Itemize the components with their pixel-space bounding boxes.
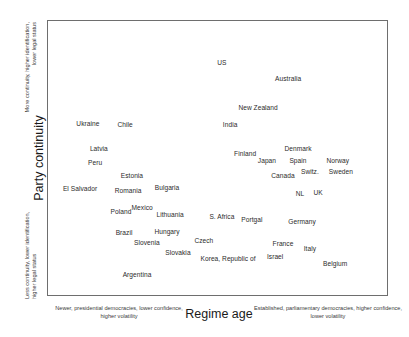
scatter-point-label: Germany <box>288 217 315 224</box>
scatter-point-label: Mexico <box>132 204 153 211</box>
scatter-point-label: Slovenia <box>134 238 160 245</box>
scatter-point-label: NL <box>296 190 305 197</box>
x-axis-low-note: Newer, presidential democracies, lower c… <box>48 304 190 320</box>
scatter-point-label: Latvia <box>90 145 108 152</box>
scatter-point-label: France <box>273 240 294 247</box>
scatter-point-label: Chile <box>117 121 132 128</box>
scatter-point-label: S. Africa <box>209 212 234 219</box>
scatter-point-label: Italy <box>304 244 316 251</box>
scatter-point-label: Ukraine <box>76 119 99 126</box>
scatter-point-label: India <box>223 121 238 128</box>
scatter-point-label: Czech <box>194 236 213 243</box>
scatter-point-label: El Salvador <box>63 185 97 192</box>
scatter-point-label: Romania <box>115 187 142 194</box>
scatter-point-label: Hungary <box>154 227 179 234</box>
plot-area: USAustraliaNew ZealandIndiaUkraineChileL… <box>47 20 388 296</box>
scatter-point-label: UK <box>313 188 322 195</box>
scatter-point-label: Korea, Republic of <box>200 254 255 261</box>
scatter-point-label: Israel <box>267 252 283 259</box>
scatter-point-label: Belgium <box>323 259 347 266</box>
y-axis-low-note: Less continuity, lower identification, h… <box>20 195 42 299</box>
scatter-point-label: Slovakia <box>165 249 190 256</box>
scatter-point-label: Finland <box>234 150 256 157</box>
scatter-plot-figure: More continuity, higher identification, … <box>0 0 409 337</box>
scatter-point-label: US <box>217 58 226 65</box>
scatter-point-label: New Zealand <box>238 103 277 110</box>
scatter-point-label: Peru <box>88 158 102 165</box>
scatter-point-label: Norway <box>327 156 350 163</box>
scatter-point-label: Spain <box>289 156 306 163</box>
scatter-point-label: Estonia <box>121 172 143 179</box>
scatter-point-label: Argentina <box>123 270 152 277</box>
scatter-point-label: Portgal <box>241 215 262 222</box>
scatter-point-label: Poland <box>111 207 132 214</box>
scatter-point-label: Sweden <box>329 167 353 174</box>
x-axis-high-note: Established, parliamentary democracies, … <box>252 304 404 320</box>
scatter-point-label: Japan <box>258 156 276 163</box>
scatter-point-label: Canada <box>271 172 294 179</box>
scatter-point-label: Lithuania <box>156 211 183 218</box>
scatter-point-label: Bulgaria <box>155 183 180 190</box>
scatter-point-label: Australia <box>275 74 301 81</box>
scatter-point-label: Brazil <box>116 228 133 235</box>
scatter-point-label: Switz. <box>301 167 319 174</box>
scatter-point-label: Denmark <box>284 145 311 152</box>
